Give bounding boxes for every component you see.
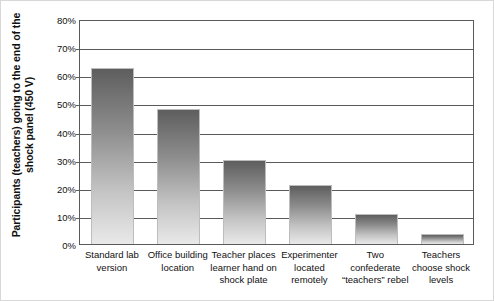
x-axis-category-label: Office buildinglocation: [142, 249, 214, 274]
bar: [421, 234, 464, 244]
bar: [91, 68, 134, 244]
y-axis-tick-label: 40%: [42, 127, 76, 138]
bar: [223, 160, 266, 244]
x-axis-category-label-line: “teachers” rebel: [339, 274, 411, 287]
bar: [289, 185, 332, 244]
x-axis-category-label-line: choose shock: [405, 262, 477, 275]
y-axis-title: Participants (teachers) going to the end…: [0, 0, 46, 250]
bar-chart: Participants (teachers) going to the end…: [0, 0, 494, 301]
x-axis-category-label-line: learner hand on: [208, 262, 280, 275]
x-axis-category-label-line: Standard lab: [76, 249, 148, 262]
y-axis-title-line-1: Participants (teachers) going to the end…: [10, 13, 22, 238]
x-axis-category-label-line: remotely: [274, 274, 346, 287]
x-axis-category-label-line: Two: [339, 249, 411, 262]
bar: [157, 109, 200, 244]
y-axis-tick-label: 50%: [42, 99, 76, 110]
plot-area: [79, 20, 474, 245]
x-axis-category-label: Standard labversion: [76, 249, 148, 274]
x-axis-category-label-line: location: [142, 262, 214, 275]
y-axis-title-line-2: shock panel (450 V): [23, 13, 36, 238]
x-axis-category-label: Teacherschoose shocklevels: [405, 249, 477, 287]
y-axis-tick-label: 70%: [42, 43, 76, 54]
x-axis-category-labels: Standard labversionOffice buildinglocati…: [79, 249, 474, 299]
bar-series: [80, 21, 473, 244]
x-axis-category-label-line: shock plate: [208, 274, 280, 287]
bar: [355, 214, 398, 244]
x-axis-category-label: Twoconfederate“teachers” rebel: [339, 249, 411, 287]
x-axis-category-label-line: Teacher places: [208, 249, 280, 262]
x-axis-category-label: Experimenterlocatedremotely: [274, 249, 346, 287]
x-axis-category-label-line: Experimenter: [274, 249, 346, 262]
y-axis-tick-labels: 0%10%20%30%40%50%60%70%80%: [42, 20, 76, 245]
x-axis-category-label-line: Teachers: [405, 249, 477, 262]
x-axis-category-label-line: confederate: [339, 262, 411, 275]
x-axis-category-label-line: Office building: [142, 249, 214, 262]
y-axis-tick-label: 20%: [42, 183, 76, 194]
y-axis-tick-label: 60%: [42, 71, 76, 82]
x-axis-category-label-line: located: [274, 262, 346, 275]
y-axis-tick-label: 30%: [42, 155, 76, 166]
x-axis-category-label-line: version: [76, 262, 148, 275]
y-axis-tick-label: 0%: [42, 240, 76, 251]
y-axis-tick-label: 80%: [42, 15, 76, 26]
x-axis-category-label: Teacher placeslearner hand onshock plate: [208, 249, 280, 287]
x-axis-category-label-line: levels: [405, 274, 477, 287]
y-axis-tick-label: 10%: [42, 211, 76, 222]
